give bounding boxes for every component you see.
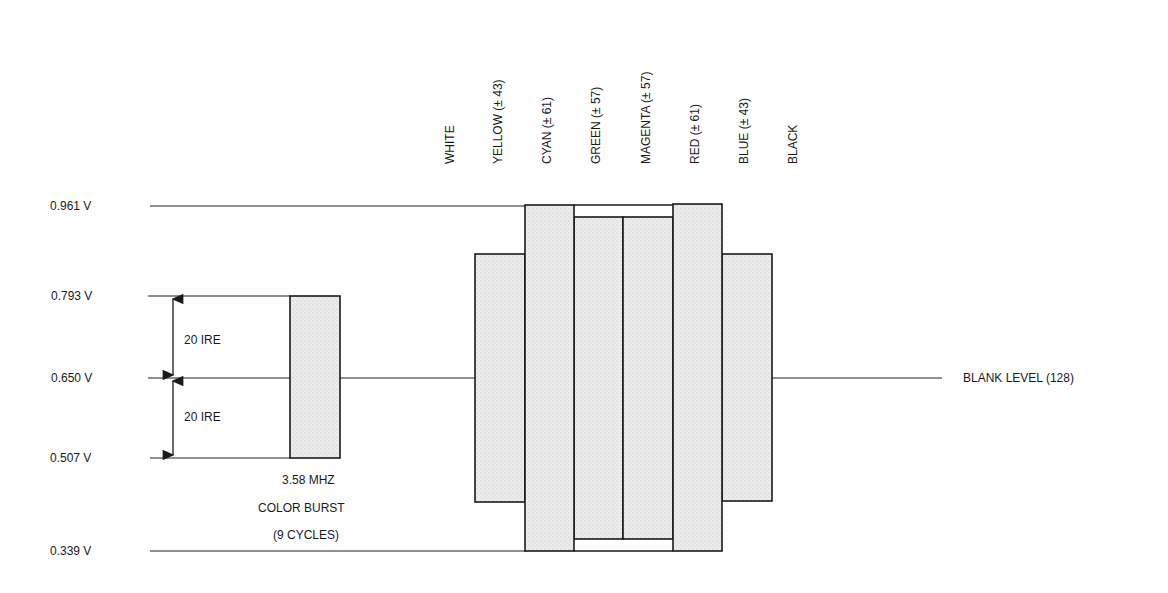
chroma-levels-diagram: 0.961 V 0.793 V 0.650 V 0.507 V 0.339 V … [0,0,1168,593]
level-label-0507: 0.507 V [50,451,91,465]
level-label-0339: 0.339 V [50,544,91,558]
bar-label-blue: BLUE (± 43) [737,98,751,164]
bar-label-magenta: MAGENTA (± 57) [639,72,653,164]
burst-caption-frequency: 3.58 MHZ [282,473,335,487]
bar-label-cyan: CYAN (± 61) [540,97,554,164]
burst-caption-cycles: (9 CYCLES) [273,528,339,542]
bar-label-red: RED (± 61) [688,104,702,164]
blank-level-label: BLANK LEVEL (128) [963,371,1074,385]
ire-label-lower: 20 IRE [184,410,221,424]
bar-label-yellow: YELLOW (± 43) [491,79,505,164]
bar-red [673,204,722,551]
bar-magenta [623,217,673,539]
bar-cyan [525,205,574,551]
bar-label-white: WHITE [443,125,457,164]
burst-caption-name: COLOR BURST [258,501,345,515]
level-label-0650: 0.650 V [51,371,92,385]
color-burst-bar [290,296,340,458]
bar-label-green: GREEN (± 57) [589,87,603,164]
diagram-svg [0,0,1168,593]
bar-yellow [475,254,525,502]
level-label-0793: 0.793 V [51,289,92,303]
ire-label-upper: 20 IRE [184,333,221,347]
bar-label-black: BLACK [786,125,800,164]
bar-green [574,217,623,539]
level-label-0961: 0.961 V [50,199,91,213]
bar-blue [722,254,772,501]
